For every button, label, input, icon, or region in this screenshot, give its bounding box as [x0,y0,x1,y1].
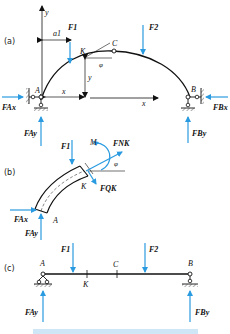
arch-internal-force-diagram: (a) y x a1 C K φ y x [0,0,230,334]
force-fby-label-c: FBy [194,308,210,317]
force-fax-label-b: FAx [13,215,28,224]
moment-label: M [89,138,98,147]
segment-outer-edge [35,166,80,209]
force-fay-label-c: FAy [24,308,38,317]
hinge-c [112,49,116,53]
force-f1-label: F1 [67,23,77,32]
force-fqk-label: FQK [99,184,117,193]
panel-b-label: (b) [4,168,15,177]
y-axis-label: y [44,8,49,17]
force-fax-label: FAx [1,103,16,112]
point-a-label-b: A [52,216,58,225]
angle-phi-label: φ [99,61,103,69]
x-axis-label: x [141,99,146,108]
panel-a: (a) y x a1 C K φ y x [1,6,228,146]
point-k-label-b: K [80,182,87,191]
force-fay-label-b: FAy [24,229,38,238]
force-f2-label: F2 [148,23,158,32]
point-k-label: K [79,47,86,56]
angle-phi-label-b: φ [114,160,118,168]
point-c-label-c: C [113,260,119,269]
panel-c-label: (c) [4,264,15,273]
moment-arc [95,143,110,170]
point-k-label-c: K [82,280,89,289]
point-a-label: A [34,86,40,95]
point-b-label: B [191,85,196,94]
point-c-label: C [112,39,118,48]
a1-label: a1 [53,29,61,38]
panel-b: (b) φ K M F1 FNK FQK FAx FAy A [4,138,130,240]
panel-a-label: (a) [4,37,15,46]
force-f1-label-b: F1 [60,142,70,151]
force-fby-label: FBy [191,129,207,138]
segment-end-a [35,209,47,213]
force-fay-label: FAy [23,129,37,138]
point-b-label-c: B [188,259,193,268]
x-coord-label: x [61,87,66,96]
force-fbx-label: FBx [212,103,228,112]
panel-c: (c) K C A B F1 F2 FAy [4,243,210,322]
point-a-label-c: A [39,259,45,268]
force-fnk-label: FNK [112,139,130,148]
figure-caption-cutoff [33,329,198,334]
force-f1-label-c: F1 [60,245,70,254]
y-coord-label: y [87,73,92,82]
force-f2-label-c: F2 [148,245,158,254]
